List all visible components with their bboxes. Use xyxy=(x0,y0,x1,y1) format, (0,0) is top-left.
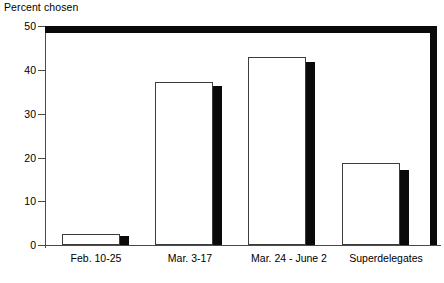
y-tick-50 xyxy=(38,26,45,27)
y-axis-label-10: 10 xyxy=(2,196,36,207)
bar-group-1 xyxy=(62,26,140,245)
y-axis-label-50: 50 xyxy=(2,21,36,32)
bar-group-4 xyxy=(342,26,420,245)
y-axis-label-20: 20 xyxy=(2,153,36,164)
bar-open-2 xyxy=(155,82,213,245)
bar-solid-1 xyxy=(120,236,129,245)
bar-solid-3 xyxy=(306,62,315,245)
plot-area xyxy=(45,26,437,245)
x-axis-label-1: Feb. 10-25 xyxy=(43,252,149,264)
x-axis-line xyxy=(41,245,441,246)
plot-frame-right xyxy=(430,26,437,245)
bar-group-2 xyxy=(155,26,233,245)
y-tick-10 xyxy=(38,201,45,202)
y-axis-label-0: 0 xyxy=(2,240,36,251)
y-tick-30 xyxy=(38,114,45,115)
bar-solid-4 xyxy=(400,170,409,245)
bar-group-3 xyxy=(248,26,326,245)
y-tick-20 xyxy=(38,158,45,159)
bar-open-3 xyxy=(248,57,306,245)
bar-open-1 xyxy=(62,234,120,245)
bar-open-4 xyxy=(342,163,400,245)
y-tick-40 xyxy=(38,70,45,71)
bar-solid-2 xyxy=(213,86,222,245)
y-axis-labels: 50 40 30 20 10 0 xyxy=(0,0,36,283)
y-axis-label-30: 30 xyxy=(2,109,36,120)
y-axis-label-40: 40 xyxy=(2,65,36,76)
bar-chart: Percent chosen 50 40 30 20 10 0 xyxy=(0,0,444,283)
x-axis-label-4: Superdelegates xyxy=(331,252,441,264)
